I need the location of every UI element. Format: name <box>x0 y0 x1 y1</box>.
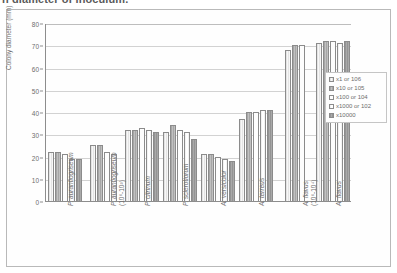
x-axis-tick-label: A. flavus(10⁶-10⁴) <box>302 180 318 206</box>
legend-swatch <box>329 95 334 100</box>
bar <box>239 119 245 201</box>
y-axis-tick-mark <box>40 68 43 69</box>
y-axis-tick-label: 40 <box>32 110 39 117</box>
y-axis-tick-mark <box>40 157 43 158</box>
x-axis-label-slot: P. citrinum <box>122 204 160 266</box>
bar <box>163 132 169 201</box>
legend-item: x10 or 105 <box>328 84 384 92</box>
y-axis-tick-label: 30 <box>32 132 39 139</box>
bar <box>97 145 103 201</box>
legend-swatch <box>329 113 334 118</box>
legend-label: x1000 or 102 <box>336 102 371 110</box>
y-axis-tick-label: 20 <box>32 154 39 161</box>
x-axis-tick-label-line: A. versicolor <box>220 170 227 206</box>
legend-label: x100 or 104 <box>336 93 368 101</box>
y-axis-tick-mark <box>40 24 43 25</box>
y-axis-tick-label: 80 <box>32 21 39 28</box>
bar <box>285 50 291 201</box>
bar-group <box>237 24 275 201</box>
bar-group <box>46 24 84 201</box>
x-axis-tick-label-line: (10⁶-10⁴) <box>310 180 318 206</box>
bar <box>201 154 207 201</box>
legend-swatch <box>329 104 334 109</box>
bar <box>292 45 298 201</box>
legend-item: x10000 <box>328 111 384 119</box>
bar <box>153 132 159 201</box>
legend-label: x10000 <box>336 111 356 119</box>
bar <box>299 45 305 201</box>
legend-swatch <box>329 77 334 82</box>
bar <box>170 125 176 201</box>
x-axis-tick-label-line: P. citrinum <box>144 176 151 206</box>
y-axis-tick-label: 70 <box>32 43 39 50</box>
x-axis-tick-label-line: P. sclerotiorum <box>182 163 189 206</box>
chart-legend: x1 or 106x10 or 105x100 or 104x1000 or 1… <box>325 72 387 123</box>
bar-group <box>199 24 237 201</box>
bar <box>104 152 110 201</box>
x-axis-tick-label-line: A. terreus <box>258 178 265 206</box>
bar <box>48 152 54 201</box>
x-axis-tick-label: P. sclerotiorum <box>182 163 189 206</box>
bar <box>90 145 96 201</box>
x-axis-tick-label-line: P. aurantiogriseum <box>67 152 74 206</box>
y-axis-tick-mark <box>40 135 43 136</box>
x-axis-tick-label: A. versicolor <box>220 170 227 206</box>
legend-label: x10 or 105 <box>336 84 364 92</box>
legend-item: x100 or 104 <box>328 93 384 101</box>
x-axis-label-slot: A. flavus <box>313 204 351 266</box>
chart-frame: 01020304050607080 Colony diameter (mm) P… <box>6 9 391 267</box>
y-axis-tick-mark <box>40 113 43 114</box>
bar-group <box>161 24 199 201</box>
bar <box>132 130 138 201</box>
x-axis-label-slot: P. sclerotiorum <box>160 204 198 266</box>
y-axis-tick-mark <box>40 179 43 180</box>
x-axis-tick-label: A. terreus <box>258 178 265 206</box>
y-axis-tick-label: 60 <box>32 65 39 72</box>
x-axis-label-slot: P. aurantiogriseum <box>45 204 83 266</box>
y-axis-tick-label: 50 <box>32 87 39 94</box>
bar <box>246 112 252 201</box>
bar <box>229 161 235 201</box>
legend-item: x1 or 106 <box>328 75 384 83</box>
x-axis: P. aurantiogriseumP. aurantiogriseum(10⁶… <box>45 204 351 266</box>
figure-caption-strip: n diameter of inoculum. <box>0 0 397 9</box>
figure-caption-text: n diameter of inoculum. <box>2 0 128 5</box>
bar-group <box>123 24 161 201</box>
bar <box>76 159 82 201</box>
legend-swatch <box>329 86 334 91</box>
x-axis-tick-label-line: A. flavus <box>302 180 310 206</box>
y-axis-tick-label: 0 <box>35 199 39 206</box>
bar <box>55 152 61 201</box>
x-axis-label-slot: A. versicolor <box>198 204 236 266</box>
x-axis-tick-label: P. aurantiogriseum <box>67 152 74 206</box>
y-axis-tick-label: 10 <box>32 176 39 183</box>
bar-group <box>276 24 314 201</box>
bar <box>267 110 273 201</box>
x-axis-tick-label: A. flavus <box>335 181 342 206</box>
y-axis-tick-mark <box>40 202 43 203</box>
legend-item: x1000 or 102 <box>328 102 384 110</box>
x-axis-tick-label: P. aurantiogriseum(10⁶-10³) <box>110 152 126 206</box>
x-axis-tick-label-line: A. flavus <box>335 181 342 206</box>
plot-area <box>45 24 351 202</box>
x-axis-tick-label-line: (10⁶-10³) <box>118 152 126 206</box>
legend-label: x1 or 106 <box>336 75 361 83</box>
x-axis-label-slot: P. aurantiogriseum(10⁶-10³) <box>83 204 121 266</box>
bar <box>191 139 197 201</box>
y-axis-tick-mark <box>40 90 43 91</box>
x-axis-label-slot: A. flavus(10⁶-10⁴) <box>275 204 313 266</box>
y-axis: 01020304050607080 <box>7 24 43 202</box>
bar <box>208 154 214 201</box>
bars-layer <box>46 24 351 201</box>
bar <box>316 43 322 201</box>
x-axis-label-slot: A. terreus <box>236 204 274 266</box>
x-axis-tick-label: P. citrinum <box>144 176 151 206</box>
y-axis-tick-mark <box>40 46 43 47</box>
y-axis-title: Colony diameter (mm) <box>5 6 12 70</box>
